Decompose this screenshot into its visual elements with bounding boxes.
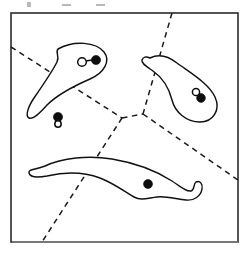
scan-artifact-mark <box>27 2 31 7</box>
organism-bottom-nucleus-filled <box>144 180 153 189</box>
free-nucleus-pair <box>53 112 62 127</box>
organism-right-outline <box>142 56 217 122</box>
organism-bottom-outline <box>29 157 202 200</box>
bounding-box-frame <box>11 13 238 242</box>
scan-artifact-group <box>27 2 105 7</box>
organism-upper-left-nucleus-open <box>78 58 87 67</box>
scan-artifact-mark <box>62 4 71 6</box>
organism-upper-left-outline <box>27 43 107 118</box>
free-nucleus-open <box>55 121 61 127</box>
partition-edge-junction <box>122 114 143 118</box>
partition-network <box>11 13 238 242</box>
organism-right <box>142 56 217 122</box>
organism-upper-left-nucleus-filled <box>91 55 100 64</box>
partition-edge-lower-right <box>143 114 238 180</box>
organism-upper-left <box>27 43 107 118</box>
partition-organism-figure <box>0 0 248 254</box>
figure-container <box>0 0 248 254</box>
scan-artifact-mark <box>96 4 105 6</box>
organism-right-nucleus-filled <box>197 94 206 103</box>
organism-bottom <box>29 157 202 200</box>
